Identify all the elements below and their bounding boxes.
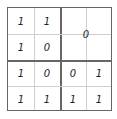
cell-r2-c2: 0	[60, 60, 86, 86]
cell-r0-c0: 1	[8, 8, 34, 34]
cell-r3-c3: 1	[86, 86, 112, 112]
cell-r2-c0: 1	[8, 60, 34, 86]
cell-r2-c3: 1	[86, 60, 112, 86]
cell-r1-c0: 1	[8, 34, 34, 60]
cell-r3-c1: 1	[34, 86, 60, 112]
cell-r0-c1: 1	[34, 8, 60, 34]
cell-r3-c2: 1	[60, 86, 86, 112]
cell-r3-c0: 1	[8, 86, 34, 112]
binary-grid: 1 1 1 0 0 1 0 0 1 1 1 1 1	[7, 7, 112, 111]
cell-r2-c1: 0	[34, 60, 60, 86]
merged-block-top-right: 0	[60, 8, 112, 60]
cell-r1-c1: 0	[34, 34, 60, 60]
